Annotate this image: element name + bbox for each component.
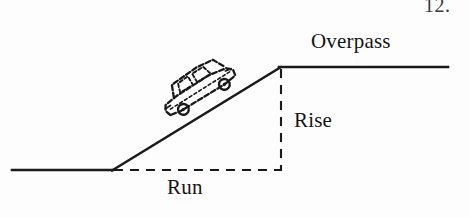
measurement-lines-group bbox=[114, 69, 282, 171]
figure-drawing bbox=[0, 0, 470, 217]
overpass-label: Overpass bbox=[311, 31, 391, 52]
overpass-ramp-figure: Overpass Rise Run 12. bbox=[0, 0, 470, 217]
figure-number: 12. bbox=[424, 0, 451, 15]
run-label: Run bbox=[167, 177, 203, 198]
car-roof bbox=[167, 54, 226, 98]
car-window-front bbox=[175, 76, 193, 92]
rise-label: Rise bbox=[294, 110, 332, 131]
car-icon bbox=[155, 52, 240, 123]
